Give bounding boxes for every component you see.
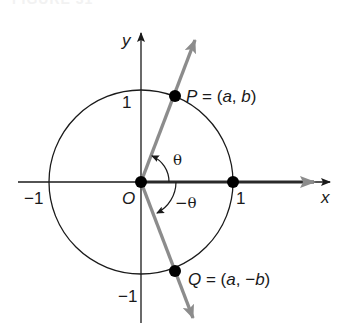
P-name: P <box>186 87 198 106</box>
terminal-ray-theta <box>141 40 195 182</box>
tick-x-pos-1: 1 <box>236 189 245 208</box>
Q-comma: , <box>236 270 245 289</box>
neg-theta-arc <box>157 182 176 213</box>
unit-circle-figure: FIGURE 31 <box>0 0 345 323</box>
theta-label: θ <box>173 151 182 169</box>
Q-a: a <box>226 270 235 289</box>
P-b: b <box>241 87 250 106</box>
y-axis-label: y <box>121 31 132 50</box>
tick-y-neg-1: −1 <box>118 287 137 306</box>
P-comma: , <box>232 87 241 106</box>
P-a: a <box>222 87 231 106</box>
x-axis-label: x <box>320 188 330 207</box>
origin-label: O <box>122 189 135 208</box>
Q-close: ) <box>265 270 271 289</box>
point-Q <box>169 265 181 277</box>
unit-circle-diagram: y x O 1 −1 1 −1 θ −θ P = (a, b) Q = (a, … <box>0 0 345 323</box>
Q-name: Q <box>188 270 201 289</box>
P-eq: = ( <box>197 87 222 106</box>
point-P-label: P = (a, b) <box>186 87 256 106</box>
point-Q-label: Q = (a, −b) <box>188 270 270 289</box>
origin-point <box>135 176 147 188</box>
P-close: ) <box>251 87 257 106</box>
tick-y-pos-1: 1 <box>122 93 131 112</box>
theta-arc <box>152 156 169 182</box>
point-1-0 <box>227 176 239 188</box>
neg-theta-label: −θ <box>175 194 197 212</box>
point-P <box>169 90 181 102</box>
Q-eq: = ( <box>201 270 226 289</box>
tick-x-neg-1: −1 <box>24 189 43 208</box>
Q-neg: − <box>245 270 255 289</box>
Q-b: b <box>255 270 264 289</box>
